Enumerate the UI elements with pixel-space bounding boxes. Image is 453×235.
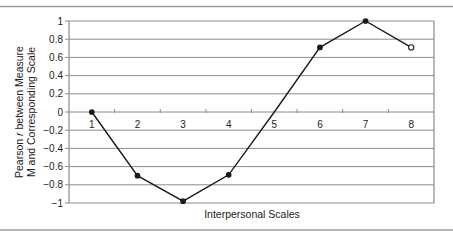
data-point bbox=[181, 199, 186, 204]
y-axis-title: Pearson r between MeasureM and Correspon… bbox=[13, 46, 37, 178]
y-tick-labels: 10.80.60.40.20−0.2−0.4−0.6−0.8−1 bbox=[43, 16, 63, 209]
x-axis-title: Interpersonal Scales bbox=[204, 208, 300, 220]
y-tick-label: 0 bbox=[57, 107, 63, 118]
y-tick-label: −0.6 bbox=[43, 161, 63, 172]
x-tick-label: 4 bbox=[226, 119, 232, 130]
y-axis-title-line: M and Corresponding Scale bbox=[25, 47, 37, 177]
data-point bbox=[135, 173, 140, 178]
y-tick-label: 1 bbox=[57, 16, 63, 27]
x-tick-label: 3 bbox=[180, 119, 186, 130]
x-tick-label: 2 bbox=[135, 119, 141, 130]
x-tick-label: 8 bbox=[408, 119, 414, 130]
x-tick-labels: 12345678 bbox=[89, 119, 414, 130]
y-tick-label: 0.6 bbox=[49, 52, 63, 63]
x-tick-label: 7 bbox=[363, 119, 369, 130]
y-tick-label: 0.8 bbox=[49, 34, 63, 45]
y-tick-label: −0.8 bbox=[43, 179, 63, 190]
data-point bbox=[90, 110, 95, 115]
y-axis-title-line: Pearson r between Measure bbox=[13, 46, 25, 178]
y-tick-label: −1 bbox=[52, 198, 64, 209]
y-tick-label: −0.4 bbox=[43, 143, 63, 154]
x-tick-label: 5 bbox=[272, 119, 278, 130]
data-point bbox=[363, 19, 368, 24]
y-tick-label: −0.2 bbox=[43, 125, 63, 136]
y-tick-label: 0.2 bbox=[49, 88, 63, 99]
x-tick-label: 6 bbox=[317, 119, 323, 130]
data-point bbox=[318, 45, 323, 50]
y-tick-label: 0.4 bbox=[49, 70, 63, 81]
data-point bbox=[409, 45, 414, 50]
chart: 10.80.60.40.20−0.2−0.4−0.6−0.8−1 1234567… bbox=[0, 0, 453, 235]
x-tick-label: 1 bbox=[89, 119, 95, 130]
data-point bbox=[226, 172, 231, 177]
